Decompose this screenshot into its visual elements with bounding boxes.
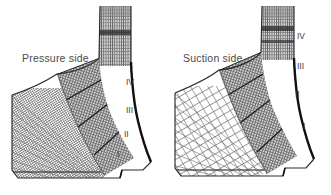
mesh-figure: Pressure side IV III II I (0, 0, 331, 195)
duct-mesh-region (96, 2, 136, 72)
panel-title-suction-side: Suction side (183, 52, 243, 64)
zone-label-iv: IV (297, 32, 305, 41)
panel-suction-side: Suction side IV III II I (166, 0, 331, 195)
mesh-grid-pressure-side (0, 0, 165, 195)
zone-label-ii: II (295, 90, 300, 99)
zone-label-i: I (117, 150, 119, 159)
zone-label-i: I (303, 122, 305, 131)
outer-wall-edge (294, 58, 314, 159)
mesh-grid-suction-side (166, 0, 331, 195)
zone-label-iii: III (126, 106, 133, 115)
trailing-notch (120, 170, 122, 178)
panel-title-pressure-side: Pressure side (22, 52, 89, 64)
duct-mesh-region (258, 2, 298, 66)
zone-label-iv: IV (126, 78, 134, 87)
zone-label-ii: II (124, 130, 129, 139)
panel-pressure-side: Pressure side IV III II I (0, 0, 165, 195)
zone-label-iii: III (297, 62, 304, 71)
trailing-notch (283, 168, 285, 176)
outer-wall-edge (131, 62, 151, 162)
